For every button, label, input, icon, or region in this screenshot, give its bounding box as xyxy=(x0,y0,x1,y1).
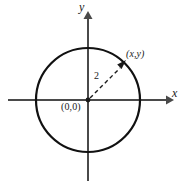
y-axis-arrow-icon xyxy=(84,11,93,19)
origin-point-marker xyxy=(86,98,91,103)
y-axis-label: y xyxy=(79,1,84,13)
point-xy-label: (x,y) xyxy=(126,49,145,59)
circle-diagram-figure: y x (x,y) (0,0) 2 xyxy=(0,0,185,181)
x-axis-label: x xyxy=(172,87,177,99)
radius-length-label: 2 xyxy=(94,71,99,81)
origin-label: (0,0) xyxy=(61,102,81,112)
diagram-canvas xyxy=(0,0,185,181)
